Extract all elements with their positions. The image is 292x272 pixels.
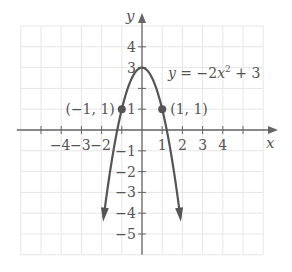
equation-var: x [217,65,225,81]
y-axis-label: y [125,7,135,25]
x-tick-label: −3 [70,137,91,153]
point-label: (1, 1) [170,101,208,117]
x-tick-label: 4 [218,137,227,153]
point-marker [158,105,166,113]
equation-label: y = −2x2 + 3 [167,64,260,81]
y-tick-label: 4 [127,39,136,55]
curve-arrow-icon [175,207,183,221]
y-tick-label: −1 [115,143,136,159]
y-axis-arrow-icon [138,13,146,23]
y-tick-label: −3 [115,184,136,200]
x-tick-label: 1 [158,137,167,153]
point-label: (−1, 1) [65,101,114,117]
y-tick-label: 1 [127,101,136,117]
equation-lhs: = −2 [176,65,217,81]
point-marker [118,105,126,113]
y-tick-label: −2 [115,164,136,180]
x-tick-label: −4 [50,137,71,153]
x-axis-label: x [266,134,275,152]
y-tick-label: −4 [115,205,136,221]
y-tick-label: −5 [115,226,136,242]
parabola-chart: −4−3−21234431−1−2−3−4−5 (−1, 1)(1, 1) x … [0,0,292,272]
curve-arrow-icon [101,207,109,221]
axes [17,13,278,255]
x-tick-label: −2 [90,137,111,153]
equation-rhs: + 3 [231,65,261,81]
x-axis-arrow-icon [268,126,278,134]
x-tick-label: 3 [198,137,207,153]
x-tick-label: 2 [178,137,187,153]
